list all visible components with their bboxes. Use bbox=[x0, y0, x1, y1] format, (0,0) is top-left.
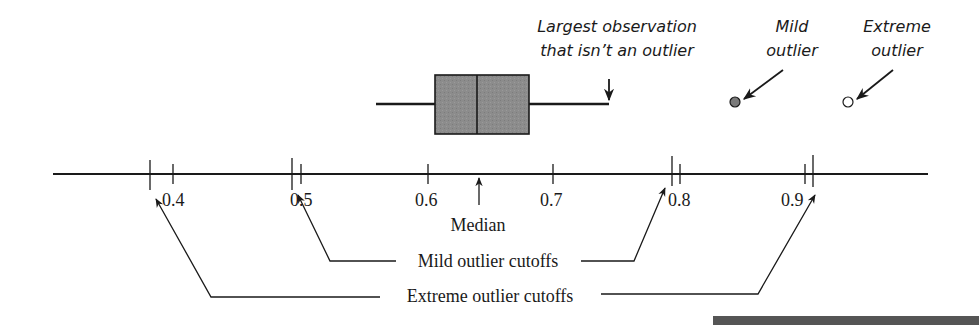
largest-observation-label-line2: that isn’t an outlier bbox=[540, 41, 695, 60]
tick-label-0.6: 0.6 bbox=[415, 190, 438, 210]
extreme-cutoffs-label: Extreme outlier cutoffs bbox=[407, 286, 574, 306]
extreme-cutoff-left-leader bbox=[156, 199, 380, 297]
median-label: Median bbox=[451, 215, 506, 235]
mild-cutoff-right-leader bbox=[581, 188, 665, 261]
iqr-box bbox=[435, 75, 529, 134]
mild-cutoffs-label: Mild outlier cutoffs bbox=[418, 251, 559, 271]
largest-observation-label-line1: Largest observation bbox=[537, 17, 697, 36]
tick-label-0.4: 0.4 bbox=[162, 190, 185, 210]
mild-cutoff-left-leader bbox=[298, 195, 396, 261]
mild-outlier-label-line2: outlier bbox=[766, 41, 819, 60]
mild-outlier-label-line1: Mild bbox=[776, 17, 810, 36]
tick-label-0.7: 0.7 bbox=[540, 190, 563, 210]
tick-label-0.5: 0.5 bbox=[290, 190, 313, 210]
extreme-outlier-arrow bbox=[857, 70, 893, 99]
tick-label-0.8: 0.8 bbox=[668, 190, 691, 210]
tick-labels: 0.4 0.5 0.6 0.7 0.8 0.9 bbox=[162, 190, 804, 210]
cutoff-marks bbox=[150, 155, 813, 190]
extreme-outlier-label-line2: outlier bbox=[871, 41, 924, 60]
mild-outlier-arrow bbox=[744, 70, 783, 99]
footer-bar bbox=[713, 316, 979, 325]
mild-outlier-point bbox=[730, 97, 740, 107]
boxplot-diagram: 0.4 0.5 0.6 0.7 0.8 0.9 Median Mild outl… bbox=[0, 0, 979, 325]
extreme-outlier-point bbox=[843, 97, 853, 107]
tick-label-0.9: 0.9 bbox=[781, 190, 804, 210]
extreme-outlier-label-line1: Extreme bbox=[863, 17, 931, 36]
